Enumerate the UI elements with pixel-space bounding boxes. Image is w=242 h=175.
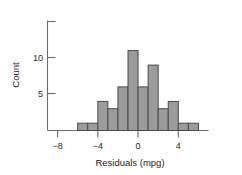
histogram-bars <box>78 51 199 131</box>
histogram-bar <box>138 87 148 131</box>
x-tick-label-0: 0 <box>135 141 140 151</box>
y-tick-label-5: 5 <box>38 89 43 99</box>
x-tick-label--4: −4 <box>93 141 103 151</box>
histogram-bar <box>78 123 88 130</box>
x-tick-label--8: −8 <box>52 141 62 151</box>
histogram-bar <box>158 109 168 131</box>
histogram-bar <box>108 109 118 131</box>
histogram-bar <box>128 51 138 131</box>
histogram-bar <box>178 123 188 130</box>
x-tick-label-4: 4 <box>176 141 181 151</box>
histogram-bar <box>98 101 108 130</box>
histogram-bar <box>188 123 198 130</box>
residuals-histogram-plot: 10 5 −8 −4 0 4 Residuals (mpg) Count <box>0 0 242 175</box>
y-axis-title: Count <box>10 62 21 88</box>
histogram-bar <box>168 101 178 130</box>
histogram-bar <box>148 65 158 130</box>
histogram-bar <box>88 123 98 130</box>
histogram-figure: 10 5 −8 −4 0 4 Residuals (mpg) Count <box>0 0 242 175</box>
histogram-bar <box>118 87 128 131</box>
x-axis-title: Residuals (mpg) <box>95 157 164 168</box>
y-tick-label-10: 10 <box>33 53 43 63</box>
